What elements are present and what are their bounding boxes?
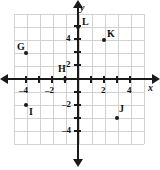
y-tick--2 (74, 104, 81, 106)
point-I (24, 103, 28, 107)
x-tick-label--2: –2 (45, 85, 54, 95)
point-L (76, 25, 80, 29)
point-label-G: G (17, 41, 25, 52)
y-tick-2 (74, 64, 81, 66)
x-axis-left-arrow-icon (0, 74, 8, 84)
x-tick--3 (38, 76, 40, 83)
y-tick-label--2: –2 (62, 99, 71, 109)
gridline-horizontal (14, 53, 144, 54)
y-tick-label-2: 2 (66, 59, 71, 69)
x-tick--4 (25, 76, 27, 83)
x-axis-right-arrow-icon (152, 74, 160, 84)
y-tick-4 (74, 38, 81, 40)
x-tick-label-2: 2 (101, 85, 106, 95)
x-axis-label: x (148, 82, 153, 93)
y-tick-label--4: –4 (62, 125, 71, 135)
y-tick-label-4: 4 (66, 33, 71, 43)
y-tick-3 (74, 51, 81, 53)
gridline-horizontal (14, 66, 144, 67)
point-label-H: H (58, 63, 66, 74)
y-axis-label: y (80, 2, 84, 13)
y-tick--1 (74, 91, 81, 93)
point-H (63, 77, 67, 81)
y-tick--4 (74, 130, 81, 132)
y-axis-down-arrow-icon (73, 159, 83, 167)
x-tick-2 (103, 76, 105, 83)
x-tick-1 (90, 76, 92, 83)
x-tick-label-4: 4 (127, 85, 132, 95)
x-tick-3 (116, 76, 118, 83)
coordinate-plane: –4 –2 2 4 4 2 –2 –4 y x G H I J K L (0, 0, 160, 170)
point-J (115, 116, 119, 120)
point-K (102, 38, 106, 42)
y-tick--3 (74, 117, 81, 119)
x-tick-label--4: –4 (19, 85, 28, 95)
gridline-horizontal (14, 144, 144, 145)
point-label-L: L (82, 16, 89, 27)
point-label-J: J (119, 103, 124, 114)
gridline-horizontal (14, 40, 144, 41)
gridline-horizontal (14, 14, 144, 15)
x-tick--2 (51, 76, 53, 83)
x-tick-4 (129, 76, 131, 83)
point-label-I: I (29, 106, 33, 117)
point-label-K: K (107, 28, 115, 39)
